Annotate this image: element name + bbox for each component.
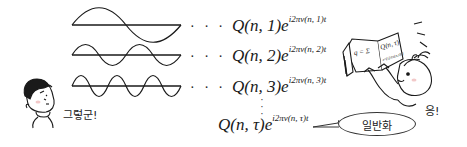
- generalization-speech-bubble: 일반화: [338, 112, 416, 136]
- exponent: i2πν(n, τ)t: [272, 113, 308, 123]
- exponent: i2πν(n, 1)t: [289, 14, 327, 24]
- exp-base: e: [281, 77, 289, 96]
- bubble-tail: [313, 120, 339, 127]
- exponent: i2πν(n, 3)t: [289, 75, 327, 85]
- formula-row-1: · · ·Q(n, 1)ei2πν(n, 1)t: [190, 17, 326, 34]
- girl-figure: [343, 22, 431, 106]
- bubble-label: 일반화: [339, 117, 415, 133]
- generalization-diagram: q = Σ Q(n, τ) e^{i2πν(n,τ)t} · · ·Q(n, 1…: [0, 0, 467, 147]
- vertical-ellipsis: ···: [259, 96, 265, 117]
- formula-row-3: · · ·Q(n, 3)ei2πν(n, 3)t: [190, 78, 326, 95]
- boy-figure: [24, 79, 54, 128]
- formula-row-2: · · ·Q(n, 2)ei2πν(n, 2)t: [190, 47, 326, 64]
- girl-speech-text: 응!: [425, 102, 439, 118]
- boy-speech-text: 그렇군!: [63, 106, 97, 122]
- ellipsis-dots: · · ·: [190, 19, 226, 34]
- coefficient: Q(n, 2): [232, 46, 281, 65]
- ellipsis-dots: · · ·: [190, 80, 226, 95]
- exp-base: e: [281, 46, 289, 65]
- exp-base: e: [281, 16, 289, 35]
- wave-group: [72, 8, 181, 97]
- coefficient: Q(n, 1): [232, 16, 281, 35]
- coefficient: Q(n, τ): [218, 115, 265, 134]
- exponent: i2πν(n, 2)t: [289, 44, 327, 54]
- formula-row-tau: Q(n, τ)ei2πν(n, τ)t: [218, 116, 308, 133]
- ellipsis-dots: · · ·: [190, 49, 226, 64]
- coefficient: Q(n, 3): [232, 77, 281, 96]
